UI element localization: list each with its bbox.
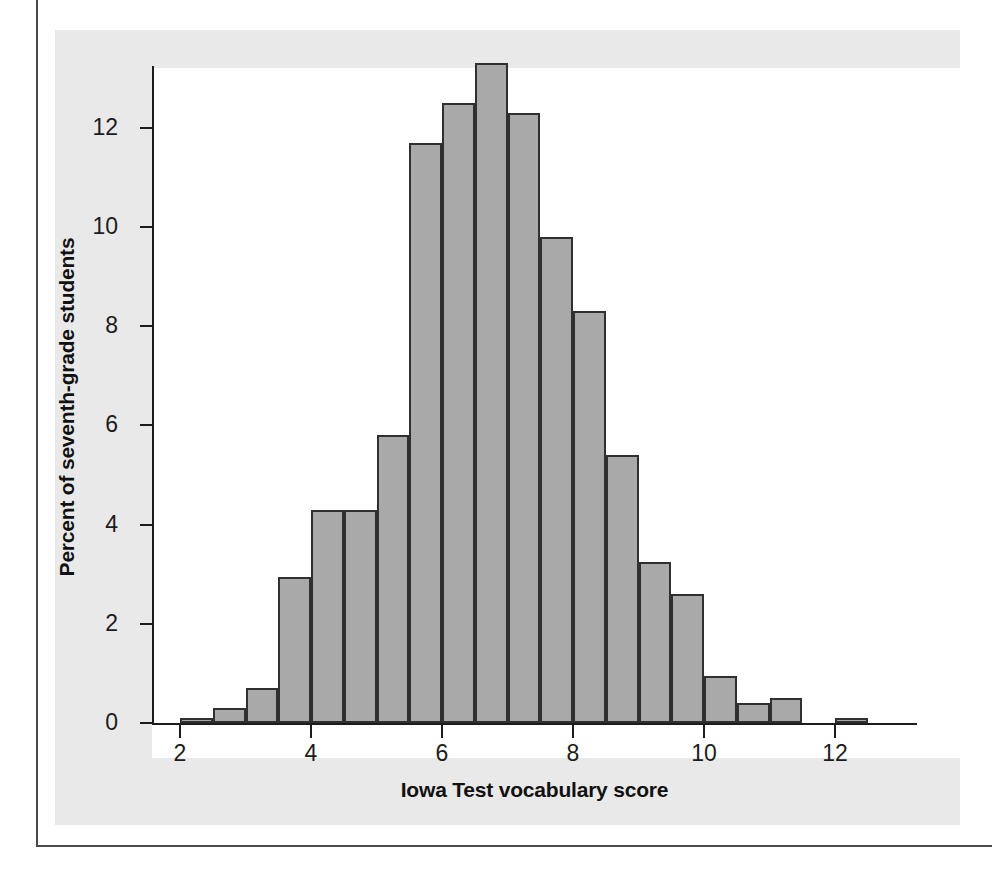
y-tick-label-wrap: 12: [78, 116, 118, 140]
y-tick-label-wrap: 10: [78, 215, 118, 239]
x-tick-2: [179, 725, 181, 738]
histogram-bar: [671, 594, 704, 723]
y-axis-title: Percent of seventh-grade students: [55, 177, 79, 637]
x-tick-10: [703, 725, 705, 738]
page-rule-bottom: [36, 845, 992, 847]
histogram-bar: [508, 113, 541, 723]
y-tick-8: [140, 325, 152, 327]
histogram-bar: [311, 510, 344, 723]
y-tick-10: [140, 226, 152, 228]
histogram-bar: [246, 688, 279, 723]
histogram-bar: [540, 237, 573, 723]
histogram-bar: [475, 63, 508, 723]
y-tick-label-wrap: 2: [78, 612, 118, 636]
histogram-bar: [213, 708, 246, 723]
y-tick-6: [140, 424, 152, 426]
y-tick-label-wrap: 0: [78, 711, 118, 735]
y-tick-label-4: 4: [78, 513, 118, 536]
histogram-bar: [442, 103, 475, 723]
x-tick-label-8: 8: [548, 742, 598, 765]
histogram-bar: [639, 562, 672, 723]
histogram-bar: [737, 703, 770, 723]
y-tick-label-wrap: 8: [78, 314, 118, 338]
y-axis-line: [152, 66, 154, 725]
y-tick-label-10: 10: [78, 215, 118, 238]
x-tick-6: [441, 725, 443, 738]
y-tick-label-2: 2: [78, 612, 118, 635]
y-tick-2: [140, 623, 152, 625]
y-tick-label-12: 12: [78, 116, 118, 139]
y-tick-label-wrap: 4: [78, 513, 118, 537]
page-top-text: [120, 0, 940, 5]
x-axis-title: Iowa Test vocabulary score: [152, 778, 917, 802]
x-tick-12: [834, 725, 836, 738]
y-tick-12: [140, 127, 152, 129]
x-tick-4: [310, 725, 312, 738]
y-tick-0: [140, 722, 152, 724]
x-axis-line: [152, 723, 917, 725]
x-tick-label-2: 2: [155, 742, 205, 765]
y-tick-label-0: 0: [78, 711, 118, 734]
histogram-bar: [835, 718, 868, 723]
histogram-bar: [377, 435, 410, 723]
histogram-bar: [770, 698, 803, 723]
page-rule-left: [36, 0, 38, 846]
histogram-bar: [180, 718, 213, 723]
histogram-bar: [606, 455, 639, 723]
y-tick-label-wrap: 6: [78, 413, 118, 437]
histogram-bar: [409, 143, 442, 723]
x-tick-label-6: 6: [417, 742, 467, 765]
histogram-bar: [278, 577, 311, 723]
y-tick-label-6: 6: [78, 413, 118, 436]
x-tick-8: [572, 725, 574, 738]
x-tick-label-12: 12: [810, 742, 860, 765]
x-tick-label-4: 4: [286, 742, 336, 765]
histogram-bar: [573, 311, 606, 723]
histogram-bar: [344, 510, 377, 723]
x-tick-label-10: 10: [679, 742, 729, 765]
histogram-bar: [704, 676, 737, 723]
y-tick-label-8: 8: [78, 314, 118, 337]
y-tick-4: [140, 524, 152, 526]
